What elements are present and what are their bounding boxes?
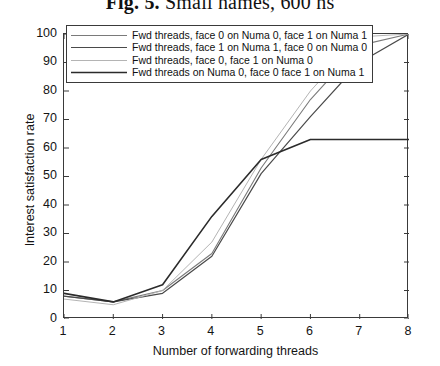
y-tick-label: 50 [17,169,57,182]
y-tick-label: 60 [17,141,57,154]
legend-item-label: Fwd threads, face 0, face 1 on Numa 0 [132,55,313,66]
y-tick-label: 90 [17,55,57,68]
legend-line-swatch-icon [71,30,127,41]
figure-container: Fig. 5. Small names, 600 ns Interest sat… [0,0,440,366]
x-tick-label: 4 [196,325,226,338]
x-tick-label: 7 [344,325,374,338]
y-tick-label: 70 [17,112,57,125]
legend-item-label: Fwd threads, face 0 on Numa 0, face 1 on… [132,30,367,41]
legend-item: Fwd threads, face 0, face 1 on Numa 0 [71,54,367,67]
figure-caption: Fig. 5. Small names, 600 ns [0,0,440,14]
x-tick-label: 3 [147,325,177,338]
y-axis-title-wrap: Interest satisfaction rate [14,45,34,285]
legend-line-swatch-icon [71,42,127,53]
x-tick-label: 2 [97,325,127,338]
x-axis-title: Number of forwarding threads [63,344,408,358]
figure-caption-label: Fig. 5. [106,0,160,13]
x-tick-label: 6 [294,325,324,338]
legend-line-swatch-icon [71,67,127,78]
y-tick-label: 30 [17,226,57,239]
legend-item: Fwd threads on Numa 0, face 0 face 1 on … [71,67,367,80]
y-tick-label: 100 [17,27,57,40]
legend-line-swatch-icon [71,55,127,66]
legend: Fwd threads, face 0 on Numa 0, face 1 on… [66,25,373,83]
legend-item: Fwd threads, face 1 on Numa 1, face 0 on… [71,42,367,55]
y-tick-label: 80 [17,84,57,97]
y-tick-label: 40 [17,198,57,211]
y-tick-label: 20 [17,255,57,268]
y-tick-label: 0 [17,312,57,325]
figure-caption-text: Small names, 600 ns [165,0,334,13]
x-tick-label: 5 [245,325,275,338]
x-tick-label: 1 [48,325,78,338]
x-tick-label: 8 [393,325,423,338]
y-tick-label: 10 [17,283,57,296]
legend-item-label: Fwd threads, face 1 on Numa 1, face 0 on… [132,42,367,53]
series-line-3 [64,139,409,301]
legend-item-label: Fwd threads on Numa 0, face 0 face 1 on … [132,67,364,78]
legend-item: Fwd threads, face 0 on Numa 0, face 1 on… [71,29,367,42]
